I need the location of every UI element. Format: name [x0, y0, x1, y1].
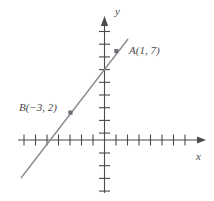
x-axis-group: [18, 135, 206, 146]
coordinate-plane-figure: A(1, 7) B(−3, 2) x y: [0, 0, 214, 201]
point-marker-A: [114, 49, 118, 53]
point-marker-B: [68, 111, 72, 115]
point-a-label: A(1, 7): [129, 44, 160, 56]
y-axis-group: [99, 16, 110, 193]
point-b-label: B(−3, 2): [19, 101, 57, 113]
x-axis-label: x: [196, 150, 201, 162]
y-axis-arrowhead: [101, 16, 108, 26]
x-axis-arrowhead: [197, 136, 206, 143]
y-axis-label: y: [115, 5, 120, 17]
